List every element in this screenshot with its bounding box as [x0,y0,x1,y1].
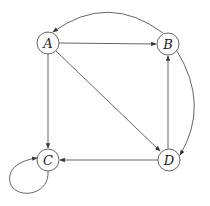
node-a: A [37,32,59,54]
edge-a-to-b [59,43,156,44]
edge-a-to-d [56,51,160,151]
node-b: B [157,33,179,55]
node-c: C [37,149,59,171]
directed-graph: A B C D [0,0,210,206]
node-b-label: B [162,37,173,52]
edge-b-to-a [53,12,163,33]
node-d-label: D [163,153,175,168]
node-a-label: A [42,36,52,51]
node-d: D [158,149,180,171]
node-c-label: C [43,153,53,168]
edge-b-to-d [177,51,194,155]
